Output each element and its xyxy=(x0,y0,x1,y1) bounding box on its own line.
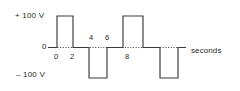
y-axis-label-negative: – 100 V xyxy=(16,71,45,79)
x-tick-label-0: 0 xyxy=(54,52,58,61)
x-tick-label-4: 4 xyxy=(89,33,93,42)
y-axis-label-zero: 0 xyxy=(42,43,46,51)
y-axis-label-positive: + 100 V xyxy=(15,12,44,20)
x-tick-label-2: 2 xyxy=(70,52,74,61)
x-tick-label-6: 6 xyxy=(105,33,109,42)
x-tick-label-8: 8 xyxy=(125,52,129,61)
waveform-figure: + 100 V – 100 V 0 seconds 0 2 4 6 8 xyxy=(0,0,240,91)
x-axis-unit-label: seconds xyxy=(191,47,222,55)
